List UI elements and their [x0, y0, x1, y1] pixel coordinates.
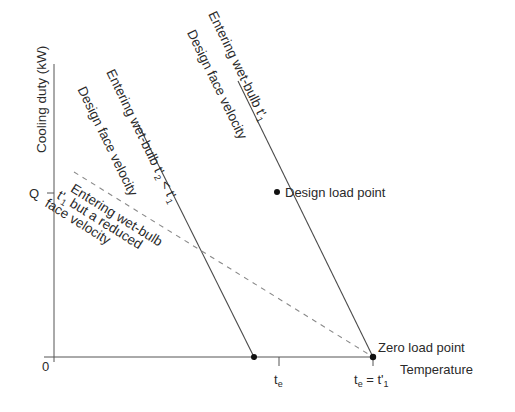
zero-load-point-label: Zero load point [378, 340, 465, 355]
design-load-point-marker [274, 189, 280, 195]
origin-label: 0 [42, 359, 49, 374]
x-axis-label: Temperature [400, 362, 473, 377]
zero-load-point-marker [370, 354, 376, 360]
q-label: Q [29, 186, 39, 201]
te-equals-t1-label: te = t'1 [354, 372, 389, 389]
y-axis-label: Cooling duty (kW) [34, 46, 49, 153]
t2-zero-point-marker [251, 354, 257, 360]
cooling-coil-performance-diagram: Cooling duty (kW) 0 Q Entering wet-bulb … [0, 0, 515, 412]
design-load-point-label: Design load point [285, 185, 386, 200]
te-label: te [274, 372, 283, 389]
